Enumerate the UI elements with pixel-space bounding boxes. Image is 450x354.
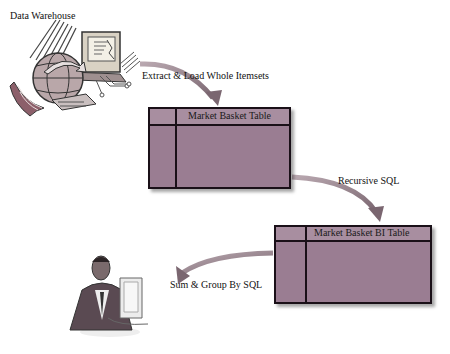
data-warehouse-label: Data Warehouse: [10, 10, 75, 21]
user-at-computer-icon: [70, 256, 148, 337]
market-basket-table: Market Basket Table: [148, 107, 291, 189]
table-key-column: [150, 109, 177, 187]
sum-group-label: Sum & Group By SQL: [170, 279, 262, 290]
data-warehouse-icon: [10, 20, 140, 116]
table-key-column: [276, 227, 307, 302]
table-title: Market Basket Table: [188, 110, 271, 121]
market-basket-bi-table: Market Basket BI Table: [274, 225, 432, 304]
extract-load-label: Extract & Load Whole Itemsets: [142, 70, 269, 81]
recursive-sql-label: Recursive SQL: [338, 175, 399, 186]
table-title: Market Basket BI Table: [314, 227, 409, 238]
